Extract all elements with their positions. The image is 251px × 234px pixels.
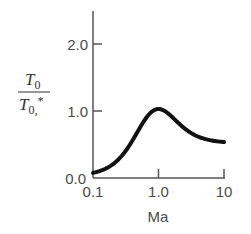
data-line	[93, 109, 224, 173]
svg-text:T0: T0	[25, 70, 40, 92]
svg-text:T0,*: T0,*	[19, 94, 43, 117]
x-tick-label-2: 10	[216, 183, 233, 200]
x-axis-label: Ma	[148, 208, 169, 225]
chart: 2.0 1.0 0.0 0.1 1.0 10 Ma T0 T0,*	[0, 0, 251, 234]
y-tick-label-1: 1.0	[67, 103, 88, 120]
y-tick-label-2: 2.0	[67, 36, 88, 53]
y-axis-label: T0 T0,*	[18, 70, 50, 117]
x-tick-label-0: 0.1	[83, 183, 104, 200]
x-tick-label-1: 1.0	[148, 183, 169, 200]
